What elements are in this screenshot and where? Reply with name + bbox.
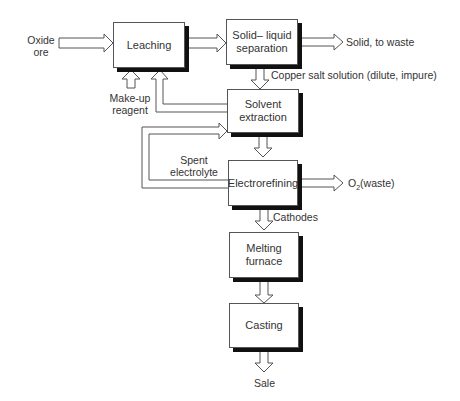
label-spent-electrolyte: Spent electrolyte [166,154,222,178]
arrow-electro-to-melting [255,206,273,230]
label-copper-salt: Copper salt solution (dilute, impure) [271,69,437,81]
node-solvent-line2: extraction [239,111,287,124]
node-solid-liquid-separation: Solid– liquid separation [226,19,298,65]
node-leaching: Leaching [113,22,185,68]
node-melting-line1: Melting [246,242,281,255]
label-makeup-reagent: Make-up reagent [105,92,155,116]
label-spent-line1: Spent [166,154,222,166]
arrow-oxide-to-leaching [59,34,113,52]
arrow-melting-to-casting [255,279,273,303]
label-makeup-line2: reagent [105,104,155,116]
label-oxide-line2: ore [25,46,57,58]
arrow-electro-to-o2 [296,175,343,191]
node-solvent-extraction: Solvent extraction [227,89,299,133]
node-casting: Casting [229,303,299,348]
node-separation-line1: Solid– liquid [232,29,291,42]
arrow-separation-to-solvent [251,66,269,89]
node-electrorefining-label: Electrorefining [228,177,298,190]
arrow-casting-to-sale [255,348,273,372]
arrow-separation-to-waste [296,34,343,50]
node-melting-furnace: Melting furnace [229,232,299,278]
node-separation-line2: separation [236,42,287,55]
node-electrorefining: Electrorefining [228,160,298,206]
node-leaching-label: Leaching [127,39,172,52]
label-o2-prefix: O [348,177,356,189]
node-melting-line2: furnace [246,255,283,268]
arrow-leaching-to-separation [185,34,226,52]
label-oxide-ore: Oxide ore [25,34,57,58]
label-oxide-line1: Oxide [25,34,57,46]
node-casting-label: Casting [245,319,282,332]
label-cathodes: Cathodes [273,211,318,223]
label-makeup-line1: Make-up [105,92,155,104]
label-o2-suffix: (waste) [360,177,394,189]
label-sale: Sale [254,377,275,389]
label-spent-line2: electrolyte [166,166,222,178]
label-solid-waste: Solid, to waste [346,36,414,48]
arrow-solvent-to-electro [254,133,272,157]
arrow-solvent-to-leaching [151,70,227,112]
label-o2-waste: O2(waste) [348,177,395,194]
node-solvent-line1: Solvent [245,98,282,111]
arrow-makeup-to-leaching [122,70,140,88]
